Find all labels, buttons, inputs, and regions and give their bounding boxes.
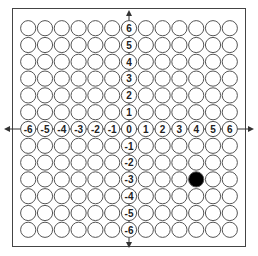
grid-point[interactable] — [88, 21, 103, 36]
grid-point[interactable] — [105, 172, 120, 187]
grid-point[interactable] — [88, 37, 103, 52]
grid-point[interactable] — [71, 88, 86, 103]
grid-point[interactable] — [205, 155, 220, 170]
grid-point[interactable] — [54, 189, 69, 204]
grid-point[interactable] — [105, 205, 120, 220]
grid-point[interactable] — [189, 71, 204, 86]
grid-point[interactable] — [54, 21, 69, 36]
grid-point[interactable] — [105, 138, 120, 153]
grid-point[interactable] — [54, 138, 69, 153]
grid-point[interactable] — [88, 105, 103, 120]
grid-point[interactable] — [205, 189, 220, 204]
grid-point[interactable] — [172, 205, 187, 220]
grid-point[interactable] — [172, 71, 187, 86]
grid-point[interactable] — [37, 88, 52, 103]
grid-point[interactable] — [105, 88, 120, 103]
grid-point[interactable] — [37, 54, 52, 69]
grid-point[interactable] — [138, 138, 153, 153]
grid-point[interactable] — [37, 155, 52, 170]
grid-point[interactable] — [37, 37, 52, 52]
grid-point[interactable] — [88, 155, 103, 170]
grid-point[interactable] — [205, 105, 220, 120]
grid-point[interactable] — [88, 71, 103, 86]
grid-point[interactable] — [189, 105, 204, 120]
grid-point[interactable] — [37, 205, 52, 220]
grid-point[interactable] — [138, 105, 153, 120]
grid-point[interactable] — [105, 54, 120, 69]
grid-point[interactable] — [88, 138, 103, 153]
grid-point[interactable] — [172, 138, 187, 153]
grid-point[interactable] — [172, 189, 187, 204]
grid-point[interactable] — [155, 21, 170, 36]
grid-point[interactable] — [172, 155, 187, 170]
grid-point[interactable] — [88, 88, 103, 103]
grid-point[interactable] — [138, 172, 153, 187]
grid-point[interactable] — [54, 37, 69, 52]
grid-point[interactable] — [189, 155, 204, 170]
grid-point[interactable] — [37, 172, 52, 187]
grid-point[interactable] — [105, 105, 120, 120]
grid-point[interactable] — [138, 155, 153, 170]
grid-point[interactable] — [155, 138, 170, 153]
grid-point[interactable] — [54, 155, 69, 170]
grid-point[interactable] — [88, 54, 103, 69]
grid-point[interactable] — [172, 222, 187, 237]
grid-point[interactable] — [189, 222, 204, 237]
grid-point[interactable] — [155, 172, 170, 187]
grid-point[interactable] — [155, 88, 170, 103]
grid-point[interactable] — [172, 105, 187, 120]
grid-point[interactable] — [21, 138, 36, 153]
grid-point[interactable] — [54, 205, 69, 220]
grid-point[interactable] — [155, 189, 170, 204]
grid-point[interactable] — [21, 54, 36, 69]
grid-point[interactable] — [71, 222, 86, 237]
grid-point[interactable] — [222, 105, 237, 120]
grid-point[interactable] — [105, 222, 120, 237]
grid-point[interactable] — [71, 105, 86, 120]
grid-point[interactable] — [138, 37, 153, 52]
grid-point[interactable] — [155, 37, 170, 52]
grid-point[interactable] — [172, 88, 187, 103]
grid-point[interactable] — [71, 155, 86, 170]
grid-point[interactable] — [37, 71, 52, 86]
grid-point[interactable] — [222, 138, 237, 153]
grid-point[interactable] — [172, 172, 187, 187]
grid-point[interactable] — [21, 205, 36, 220]
grid-point[interactable] — [37, 222, 52, 237]
grid-point[interactable] — [54, 105, 69, 120]
grid-point[interactable] — [222, 37, 237, 52]
grid-point[interactable] — [189, 37, 204, 52]
grid-point[interactable] — [205, 54, 220, 69]
grid-point[interactable] — [138, 189, 153, 204]
grid-point[interactable] — [88, 189, 103, 204]
grid-point[interactable] — [71, 189, 86, 204]
grid-point[interactable] — [222, 172, 237, 187]
grid-point[interactable] — [138, 205, 153, 220]
grid-point[interactable] — [189, 21, 204, 36]
grid-point[interactable] — [189, 54, 204, 69]
grid-point[interactable] — [71, 172, 86, 187]
grid-point[interactable] — [172, 21, 187, 36]
grid-point[interactable] — [189, 205, 204, 220]
filled-point[interactable] — [189, 172, 204, 187]
grid-point[interactable] — [37, 138, 52, 153]
grid-point[interactable] — [155, 222, 170, 237]
grid-point[interactable] — [105, 71, 120, 86]
grid-point[interactable] — [205, 205, 220, 220]
grid-point[interactable] — [189, 88, 204, 103]
grid-point[interactable] — [222, 189, 237, 204]
grid-point[interactable] — [222, 88, 237, 103]
grid-point[interactable] — [138, 54, 153, 69]
grid-point[interactable] — [222, 155, 237, 170]
grid-point[interactable] — [205, 88, 220, 103]
grid-point[interactable] — [88, 222, 103, 237]
grid-point[interactable] — [54, 54, 69, 69]
grid-point[interactable] — [205, 172, 220, 187]
grid-point[interactable] — [37, 189, 52, 204]
grid-point[interactable] — [155, 54, 170, 69]
grid-point[interactable] — [21, 189, 36, 204]
grid-point[interactable] — [37, 105, 52, 120]
grid-point[interactable] — [222, 71, 237, 86]
grid-point[interactable] — [88, 172, 103, 187]
grid-point[interactable] — [222, 54, 237, 69]
